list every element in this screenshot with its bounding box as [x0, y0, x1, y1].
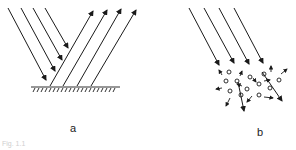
panel-b-scattering — [189, 8, 287, 111]
reflecting-surface — [31, 87, 120, 92]
panel-a-reflection — [8, 8, 136, 92]
diagram-canvas — [0, 0, 296, 150]
reflected-rays — [50, 9, 136, 86]
incident-rays — [189, 8, 282, 111]
particles — [224, 70, 281, 97]
panel-b-label: b — [257, 126, 263, 138]
figure-caption: Fig. 1.1 — [2, 140, 25, 147]
panel-a-label: a — [70, 122, 76, 134]
incident-rays — [8, 8, 68, 80]
